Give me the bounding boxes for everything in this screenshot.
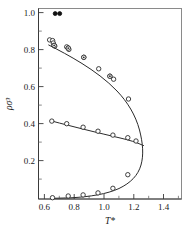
x-tick-label-1: 0.6	[39, 202, 51, 212]
phase-diagram-plot: 1.0 0.8 0.6 0.4 0.2 0.6 0.8 1.0 1.2 1.4 …	[0, 0, 193, 229]
chart-figure: 1.0 0.8 0.6 0.4 0.2 0.6 0.8 1.0 1.2 1.4 …	[0, 0, 193, 229]
y-tick-label-2: 0.8	[24, 45, 36, 55]
high-density-filled-markers	[53, 12, 62, 16]
y-tick-label-1: 1.0	[24, 8, 36, 18]
y-tick-label-5: 0.2	[24, 156, 35, 166]
x-tick-label-5: 1.4	[158, 202, 170, 212]
x-tick-label-2: 0.8	[69, 202, 81, 212]
y-tick-label-4: 0.4	[24, 119, 36, 129]
plot-frame	[39, 9, 182, 200]
x-tick-label-3: 1.0	[98, 202, 110, 212]
x-axis-title: T*	[105, 216, 115, 226]
liquid-branch-dotted-markers	[52, 43, 112, 78]
y-axis-title: ρσ³	[4, 98, 14, 111]
x-tick-label-4: 1.2	[128, 202, 139, 212]
y-axis-major-ticks	[39, 13, 44, 161]
y-tick-label-3: 0.6	[24, 82, 36, 92]
